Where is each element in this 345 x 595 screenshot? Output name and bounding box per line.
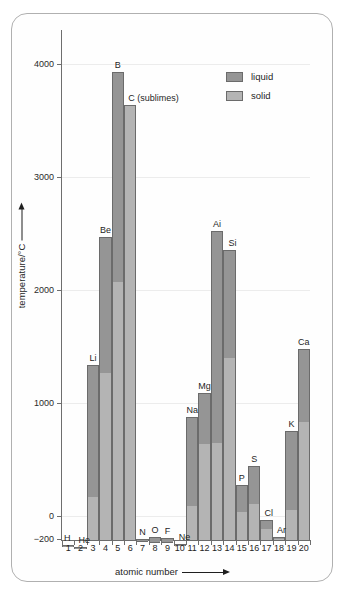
bar-segment-liquid	[113, 73, 123, 283]
bar-na	[186, 417, 198, 541]
x-tick-mark	[310, 541, 311, 545]
bar-label: Na	[152, 406, 232, 415]
x-tick-mark	[273, 541, 274, 545]
legend-label-liquid: liquid	[251, 72, 273, 82]
bar-label: Ne	[179, 533, 219, 542]
bar-b	[112, 72, 124, 541]
bar-label: Ai	[177, 220, 257, 229]
bar-segment-solid	[261, 529, 271, 540]
bar-cl	[260, 520, 272, 541]
bar-k	[285, 431, 297, 541]
bar-label: He	[79, 536, 119, 545]
bar-segment-solid	[100, 373, 110, 540]
y-tick-label: 3000	[34, 173, 54, 182]
bar-segment-solid	[199, 444, 209, 540]
y-tick-label: 0	[49, 512, 54, 521]
gridline	[62, 177, 310, 178]
bar-label: Ca	[264, 338, 344, 347]
y-tick-mark	[57, 516, 62, 517]
y-axis-arrow-icon	[18, 203, 25, 241]
x-tick-mark	[149, 541, 150, 545]
bar-label: Cl	[265, 509, 305, 518]
y-axis-title: temperature/°C	[16, 191, 27, 321]
bar-segment-solid	[249, 504, 259, 540]
bar-segment-solid	[113, 282, 123, 540]
bar-o	[149, 537, 161, 541]
y-axis-title-text: temperature/°C	[16, 244, 27, 309]
bar-segment-liquid	[199, 394, 209, 445]
bar-label: B	[78, 61, 158, 70]
bar-label: S	[214, 455, 294, 464]
x-tick-mark	[223, 541, 224, 545]
bar-f	[161, 538, 173, 541]
bar-segment-liquid	[187, 418, 197, 508]
x-tick-mark	[248, 541, 249, 545]
y-tick-label: 2000	[34, 286, 54, 295]
legend-swatch-liquid-icon	[226, 72, 243, 82]
bar-label: Mg	[165, 382, 245, 391]
x-tick-mark	[124, 541, 125, 545]
y-tick-mark	[57, 403, 62, 404]
x-tick-mark	[161, 541, 162, 545]
bar-segment-liquid	[286, 432, 296, 512]
legend-item-liquid: liquid	[226, 72, 316, 82]
bar-label: C (sublimes)	[128, 94, 218, 103]
bar-segment-solid	[237, 512, 247, 540]
bar-c	[124, 105, 136, 541]
bar-label: Li	[53, 354, 133, 363]
bar-segment-liquid	[299, 350, 309, 424]
y-tick-label: 1000	[34, 399, 54, 408]
legend-label-solid: solid	[251, 91, 271, 101]
bar-segment-liquid	[224, 251, 234, 359]
bar-segment-solid	[274, 539, 284, 540]
bar-li	[87, 365, 99, 541]
x-tick-mark	[174, 541, 175, 545]
x-tick-mark	[285, 541, 286, 545]
bar-label: K	[251, 420, 331, 429]
x-axis-arrow-icon	[182, 569, 230, 576]
bar-p	[236, 485, 248, 541]
x-axis-title: atomic number	[0, 566, 345, 577]
bar-label: Ar	[277, 526, 317, 535]
x-tick-mark	[260, 541, 261, 545]
bar-segment-liquid	[137, 540, 147, 543]
y-tick-mark	[57, 64, 62, 65]
y-tick-mark	[57, 177, 62, 178]
x-axis-title-text: atomic number	[115, 566, 178, 577]
bar-ar	[273, 537, 285, 541]
y-tick-label: 4000	[34, 60, 54, 69]
bar-segment-liquid	[237, 486, 247, 514]
legend-item-solid: solid	[226, 91, 316, 101]
bar-label: Si	[228, 239, 268, 248]
bar-n	[136, 539, 148, 541]
x-tick-mark	[136, 541, 137, 545]
bar-mg	[198, 393, 210, 541]
chart-figure: 40003000200010000−200 123456789101112131…	[0, 0, 345, 595]
bar-segment-solid	[125, 106, 135, 540]
bar-segment-liquid	[88, 366, 98, 498]
y-tick-mark	[57, 290, 62, 291]
legend: liquid solid	[226, 72, 316, 110]
x-tick-mark	[298, 541, 299, 545]
bar-segment-solid	[299, 422, 309, 540]
bar-label: Be	[65, 226, 145, 235]
bar-si	[223, 250, 235, 541]
bar-be	[99, 237, 111, 541]
legend-swatch-solid-icon	[226, 91, 243, 101]
bar-label: P	[202, 474, 282, 483]
x-tick-mark	[236, 541, 237, 545]
